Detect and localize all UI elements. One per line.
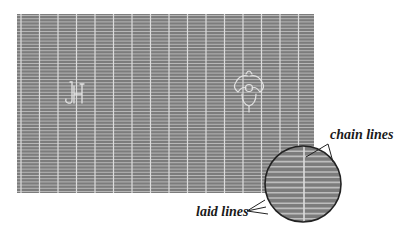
chain-lines-label: chain lines xyxy=(330,127,393,143)
magnifier-circle xyxy=(265,146,341,222)
diagram-canvas xyxy=(0,0,411,237)
laid-paper-diagram: chain lines laid lines xyxy=(0,0,411,237)
laid-lines-label: laid lines xyxy=(196,204,249,220)
